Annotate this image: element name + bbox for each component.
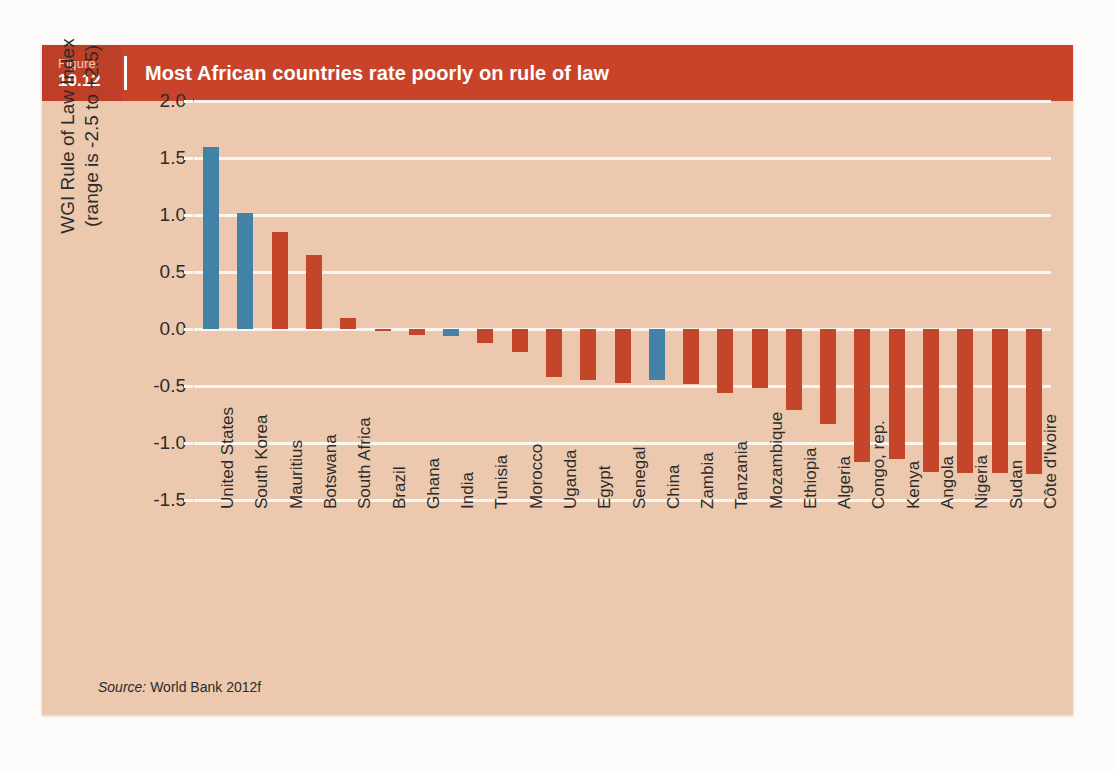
figure-card: Figure 10.12 Most African countries rate… [42,45,1073,715]
bar-united-states [203,147,219,329]
y-axis-tick-label: -0.5 [126,375,186,397]
x-axis-tick-label: Ghana [424,458,444,509]
bar-uganda [546,329,562,377]
bar-algeria [820,329,836,424]
x-axis-tick-label: Tanzania [732,441,752,509]
y-axis-tick-mark [184,442,193,445]
y-axis-tick-label: 2.0 [126,90,186,112]
y-axis-tick-mark [184,157,193,160]
x-axis-tick-label: Congo, rep. [869,420,889,509]
y-axis-tick-mark [184,271,193,274]
bar-mozambique [752,329,768,388]
bar-kenya [889,329,905,459]
y-axis-tick-mark [184,328,193,331]
x-axis-tick-label: Côte d'Ivoire [1041,414,1061,509]
x-axis-tick-label: South Korea [252,414,272,509]
bar-egypt [580,329,596,380]
y-axis-tick-mark [184,499,193,502]
bar-ethiopia [786,329,802,410]
y-axis-tick-mark [184,385,193,388]
header-divider [124,56,127,90]
y-axis-tick-labels: 2.01.51.00.50.0-0.5-1.0-1.5 [122,101,186,500]
y-axis-tick-label: 1.0 [126,204,186,226]
bar-angola [923,329,939,472]
y-axis-tick-mark [184,214,193,217]
x-axis-tick-label: Kenya [904,461,924,509]
x-axis-tick-label: Nigeria [972,455,992,509]
x-axis-tick-label: India [458,472,478,509]
x-axis-tick-label: Senegal [630,447,650,509]
bar-south-africa [340,318,356,329]
x-axis-tick-label: Mozambique [767,412,787,509]
bar-botswana [306,255,322,329]
bar-sudan [992,329,1008,473]
x-axis-tick-label: Morocco [527,444,547,509]
bar-tanzania [717,329,733,393]
y-axis-tick-label: -1.0 [126,432,186,454]
y-axis-tick-label: 0.0 [126,318,186,340]
y-axis-tick-label: 1.5 [126,147,186,169]
x-axis-tick-label: Mauritius [287,440,307,509]
figure-header: Figure 10.12 Most African countries rate… [42,45,1073,101]
bar-nigeria [957,329,973,473]
y-axis-tick-label: -1.5 [126,489,186,511]
x-axis-tick-label: Tunisia [492,455,512,509]
bar-china [649,329,665,380]
x-axis-tick-label: Uganda [561,449,581,509]
y-axis-tick-mark [184,100,193,103]
y-axis-title-line2: (range is -2.5 to +2.5) [80,21,104,251]
y-axis-tick-label: 0.5 [126,261,186,283]
source-label: Source: [98,679,146,695]
source-note: Source: World Bank 2012f [98,679,261,695]
bar-morocco [512,329,528,352]
x-axis-tick-label: China [664,465,684,509]
source-text: World Bank 2012f [150,679,261,695]
x-axis-tick-label: Sudan [1007,460,1027,509]
bar-south-korea [237,213,253,329]
bar-ghana [409,329,425,335]
x-axis-tick-label: Botswana [321,434,341,509]
chart-plot-wrapper: WGI Rule of Law Index (range is -2.5 to … [42,101,1073,715]
bar-senegal [615,329,631,383]
figure-title: Most African countries rate poorly on ru… [145,62,609,85]
bar-zambia [683,329,699,384]
x-axis-tick-label: Brazil [390,466,410,509]
x-axis-tick-label: Egypt [595,466,615,509]
bar-brazil [375,329,391,331]
y-axis-title: WGI Rule of Law Index (range is -2.5 to … [56,21,104,251]
x-axis-tick-label: United States [218,407,238,509]
x-axis-tick-label: Angola [938,456,958,509]
x-axis-tick-label: South Africa [355,417,375,509]
x-axis-tick-labels: United StatesSouth KoreaMauritiusBotswan… [194,505,1051,680]
x-axis-tick-label: Zambia [698,452,718,509]
bar-mauritius [272,232,288,329]
y-axis-title-line1: WGI Rule of Law Index [56,21,80,251]
screenshot-root: Figure 10.12 Most African countries rate… [0,0,1115,770]
bar-c-te-d-ivoire [1026,329,1042,474]
x-axis-tick-label: Algeria [835,456,855,509]
bar-india [443,329,459,336]
x-axis-tick-label: Ethiopia [801,448,821,509]
bar-tunisia [477,329,493,343]
